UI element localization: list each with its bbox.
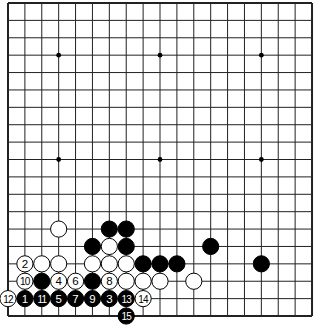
black-stone — [203, 238, 219, 254]
white-stone: 12 — [0, 291, 16, 307]
star-point — [158, 157, 163, 162]
black-stone — [84, 273, 100, 289]
stones-layer: 210468121115793131415 — [0, 221, 269, 324]
white-stone — [186, 273, 202, 289]
move-number: 12 — [3, 294, 14, 305]
white-stone — [118, 273, 134, 289]
move-number: 4 — [55, 275, 62, 287]
black-stone — [101, 221, 117, 237]
star-point — [259, 157, 264, 162]
move-number: 10 — [20, 276, 31, 287]
white-stone — [101, 256, 117, 272]
black-stone — [152, 256, 168, 272]
black-stone: 15 — [118, 308, 134, 324]
move-number: 9 — [89, 293, 95, 305]
move-number: 6 — [72, 275, 78, 287]
black-stone — [169, 256, 185, 272]
black-stone — [34, 273, 50, 289]
black-stone: 1 — [17, 291, 33, 307]
black-stone — [118, 238, 134, 254]
move-number: 7 — [72, 293, 78, 305]
black-stone: 3 — [101, 291, 117, 307]
black-stone: 5 — [51, 291, 67, 307]
black-stone — [135, 256, 151, 272]
move-number: 14 — [138, 294, 149, 305]
white-stone: 4 — [51, 273, 67, 289]
black-stone — [253, 256, 269, 272]
white-stone — [135, 273, 151, 289]
go-board: 210468121115793131415 — [0, 0, 318, 333]
black-stone: 11 — [34, 291, 50, 307]
move-number: 13 — [121, 294, 132, 305]
black-stone: 9 — [84, 291, 100, 307]
white-stone: 14 — [135, 291, 151, 307]
move-number: 8 — [106, 275, 112, 287]
star-point — [56, 157, 61, 162]
star-point — [259, 53, 264, 58]
white-stone: 10 — [17, 273, 33, 289]
star-point — [56, 53, 61, 58]
move-number: 3 — [106, 293, 112, 305]
move-number: 2 — [22, 258, 28, 270]
black-stone: 13 — [118, 291, 134, 307]
white-stone — [34, 256, 50, 272]
move-number: 5 — [55, 293, 61, 305]
white-stone: 8 — [101, 273, 117, 289]
white-stone: 6 — [67, 273, 83, 289]
white-stone — [152, 273, 168, 289]
white-stone: 2 — [17, 256, 33, 272]
move-number: 11 — [37, 294, 47, 305]
white-stone — [51, 256, 67, 272]
black-stone: 7 — [67, 291, 83, 307]
black-stone — [84, 238, 100, 254]
black-stone — [118, 221, 134, 237]
star-point — [158, 53, 163, 58]
move-number: 1 — [22, 293, 28, 305]
white-stone — [51, 221, 67, 237]
white-stone — [84, 256, 100, 272]
white-stone — [101, 238, 117, 254]
move-number: 15 — [121, 311, 132, 322]
white-stone — [118, 256, 134, 272]
